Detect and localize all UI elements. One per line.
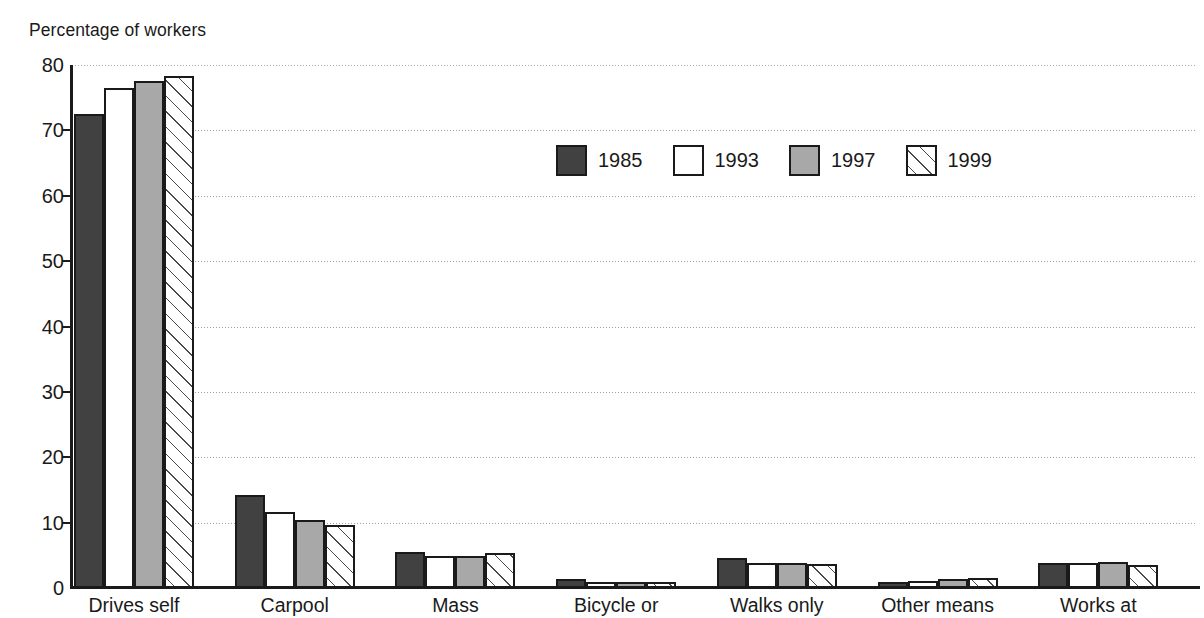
- bar-1993-mass: [425, 556, 455, 588]
- bar-1993-other-means: [908, 581, 938, 588]
- bar-1993-bicycle-or: [586, 582, 616, 588]
- x-axis-label-other-means: Other means: [881, 592, 994, 618]
- bar-1993-drives-self: [104, 88, 134, 588]
- bar-group: [1038, 65, 1158, 588]
- bar-1997-other-means: [938, 579, 968, 588]
- bar-1999-carpool: [325, 525, 355, 588]
- bar-1999-bicycle-or: [646, 582, 676, 588]
- x-axis-label-walks-only: Walks only: [730, 592, 824, 618]
- legend-item-1985: 1985: [556, 145, 643, 176]
- bar-1985-other-means: [878, 582, 908, 588]
- legend-label-1993: 1993: [715, 150, 760, 170]
- legend-item-1993: 1993: [673, 145, 760, 176]
- y-axis-tick-label: 70: [8, 120, 64, 140]
- x-axis-label-carpool: Carpool: [261, 592, 329, 618]
- bar-1997-walks-only: [777, 563, 807, 588]
- bar-1997-carpool: [295, 520, 325, 588]
- bar-1997-bicycle-or: [616, 582, 646, 588]
- legend-swatch-1997: [789, 145, 820, 176]
- bar-1997-drives-self: [134, 81, 164, 588]
- y-axis-tick-label: 0: [8, 578, 64, 598]
- y-axis-tick-label: 30: [8, 382, 64, 402]
- bar-1985-carpool: [235, 495, 265, 588]
- y-axis-tick-label: 50: [8, 251, 64, 271]
- bar-1997-mass: [455, 556, 485, 588]
- bar-1985-drives-self: [74, 114, 104, 588]
- y-axis-tick-label: 20: [8, 447, 64, 467]
- bar-1985-works-at: [1038, 563, 1068, 588]
- bar-chart: Percentage of workers 01020304050607080 …: [0, 0, 1204, 618]
- bar-1985-walks-only: [717, 558, 747, 588]
- x-axis-label-works-at: Works at: [1060, 592, 1137, 618]
- bar-group: [74, 65, 194, 588]
- y-axis-title: Percentage of workers: [29, 20, 206, 41]
- legend-swatch-1999: [906, 145, 937, 176]
- y-axis-tick-label: 10: [8, 513, 64, 533]
- bar-1999-walks-only: [807, 564, 837, 588]
- bar-1999-mass: [485, 553, 515, 588]
- legend-item-1997: 1997: [789, 145, 876, 176]
- bar-1997-works-at: [1098, 562, 1128, 588]
- x-axis-label-mass: Mass: [432, 592, 479, 618]
- y-axis-tick-labels: 01020304050607080: [0, 65, 64, 589]
- chart-legend: 1985199319971999: [556, 143, 992, 177]
- y-axis-line: [70, 65, 73, 589]
- bar-1985-mass: [395, 552, 425, 588]
- bar-1993-walks-only: [747, 563, 777, 588]
- bar-1993-works-at: [1068, 563, 1098, 588]
- x-axis-category-labels: Drives selfCarpoolMassBicycle orWalks on…: [72, 592, 1197, 618]
- bar-1985-bicycle-or: [556, 579, 586, 588]
- bar-1999-works-at: [1128, 565, 1158, 588]
- bar-group: [395, 65, 515, 588]
- bar-1999-drives-self: [164, 76, 194, 588]
- x-axis-label-bicycle-or: Bicycle or: [574, 592, 659, 618]
- y-axis-tick-label: 60: [8, 186, 64, 206]
- bar-group: [235, 65, 355, 588]
- y-axis-tick-label: 40: [8, 317, 64, 337]
- x-axis-label-drives-self: Drives self: [88, 592, 179, 618]
- legend-label-1997: 1997: [831, 150, 876, 170]
- legend-item-1999: 1999: [906, 145, 993, 176]
- legend-swatch-1993: [673, 145, 704, 176]
- legend-label-1985: 1985: [598, 150, 643, 170]
- bar-1999-other-means: [968, 578, 998, 588]
- legend-label-1999: 1999: [948, 150, 993, 170]
- legend-swatch-1985: [556, 145, 587, 176]
- bar-1993-carpool: [265, 512, 295, 588]
- y-axis-tick-label: 80: [8, 55, 64, 75]
